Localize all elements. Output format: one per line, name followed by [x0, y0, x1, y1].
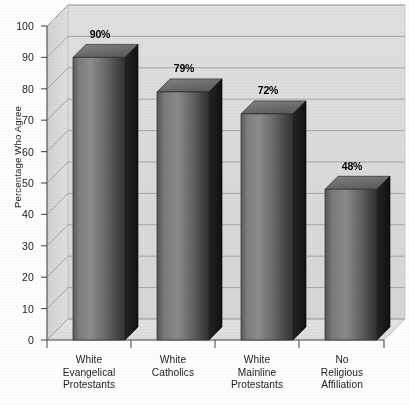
bar-side-face [293, 101, 306, 340]
category-label-line: White [47, 354, 131, 367]
category-label-line: Affiliation [300, 379, 384, 392]
y-axis-title-text: Percentage Who Agree [12, 106, 23, 208]
y-tick-label-30: 30 [8, 241, 34, 252]
bar-white-mainline-protestants [241, 101, 306, 340]
y-tick-label-0: 0 [8, 335, 34, 346]
bar-no-religious-affiliation [325, 176, 390, 340]
y-axis-title: Percentage Who Agree [7, 87, 25, 227]
category-label-white-catholics: White Catholics [131, 354, 215, 379]
category-label-line: No [300, 354, 384, 367]
category-label-no-religious-affiliation: No Religious Affiliation [300, 354, 384, 392]
bar-side-face [377, 176, 390, 340]
bar-front-face [73, 57, 125, 340]
x-axis-ticks [47, 340, 384, 348]
category-label-line: Protestants [215, 379, 299, 392]
y-tick-label-100: 100 [8, 21, 34, 32]
bar-front-face [157, 92, 209, 340]
bar-white-catholics [157, 79, 222, 340]
y-axis-ticks [41, 26, 47, 340]
category-label-line: Catholics [131, 367, 215, 380]
category-label-line: Religious [300, 367, 384, 380]
category-label-white-evangelical-protestants: White Evangelical Protestants [47, 354, 131, 392]
bar-side-face [125, 44, 138, 340]
bar-front-face [241, 114, 293, 340]
category-label-white-mainline-protestants: White Mainline Protestants [215, 354, 299, 392]
bar-front-face [325, 189, 377, 340]
category-label-line: Evangelical [47, 367, 131, 380]
bar-white-evangelical-protestants [73, 44, 138, 340]
data-label-bar-2: 79% [158, 63, 210, 74]
y-tick-label-10: 10 [8, 304, 34, 315]
category-label-line: White [131, 354, 215, 367]
y-tick-label-90: 90 [8, 52, 34, 63]
category-label-line: White [215, 354, 299, 367]
y-tick-label-20: 20 [8, 272, 34, 283]
bar-side-face [209, 79, 222, 340]
data-label-bar-1: 90% [74, 29, 126, 40]
chart-scene-svg [0, 0, 409, 405]
category-label-line: Protestants [47, 379, 131, 392]
category-label-line: Mainline [215, 367, 299, 380]
data-label-bar-4: 48% [326, 161, 378, 172]
bar-chart: 100 90 80 70 60 50 40 30 20 10 0 Percent… [0, 0, 409, 405]
data-label-bar-3: 72% [242, 85, 294, 96]
